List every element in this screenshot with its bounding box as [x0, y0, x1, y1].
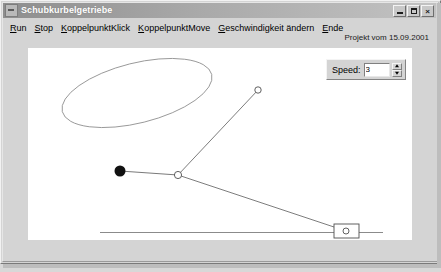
menu-item-ende[interactable]: Ende	[318, 22, 347, 34]
close-button[interactable]: ×	[421, 5, 434, 17]
menu-label: oppelpunktMove	[144, 23, 210, 33]
menu-item-stop[interactable]: Stop	[31, 22, 58, 34]
spin-down-button[interactable]	[392, 70, 402, 77]
slider-joint	[343, 228, 349, 234]
speed-panel: Speed:	[326, 59, 406, 80]
menu-label: eschwindigkeit ändern	[225, 23, 314, 33]
menu-item-koppelpunkt-move[interactable]: KoppelpunktMove	[134, 22, 214, 34]
chevron-up-icon	[395, 64, 399, 67]
spin-up-button[interactable]	[392, 63, 402, 70]
coupler-curve-trace	[55, 48, 219, 141]
project-date-label: Projekt vom 15.09.2001	[345, 33, 430, 42]
minimize-icon	[397, 12, 403, 14]
menu-item-run[interactable]: Run	[6, 22, 31, 34]
title-bar[interactable]: Schubkurbelgetriebe ×	[3, 3, 436, 18]
app-icon	[5, 4, 18, 17]
chevron-down-icon	[395, 72, 399, 75]
crank-joint[interactable]	[174, 171, 181, 178]
speed-spinner[interactable]	[392, 63, 402, 77]
menu-label: un	[17, 23, 27, 33]
speed-label: Speed:	[332, 65, 361, 75]
menu-item-geschwindigkeit-aendern[interactable]: Geschwindigkeit ändern	[214, 22, 318, 34]
maximize-button[interactable]	[407, 5, 420, 17]
window-title: Schubkurbelgetriebe	[21, 5, 393, 16]
crank-link	[120, 171, 178, 175]
menu-item-koppelpunkt-klick[interactable]: KoppelpunktKlick	[57, 22, 134, 34]
maximize-icon	[411, 8, 417, 14]
connecting-rod	[178, 175, 346, 231]
window-shadow-bottom	[3, 264, 441, 268]
close-icon: ×	[422, 6, 433, 16]
window-controls: ×	[393, 5, 435, 17]
menu-label: nde	[328, 23, 343, 33]
coupler-point[interactable]	[255, 87, 261, 93]
window-shadow-right	[437, 3, 441, 268]
menu-label: oppelpunktKlick	[67, 23, 130, 33]
ground-pivot[interactable]	[115, 166, 126, 177]
application-window: Schubkurbelgetriebe × Run Stop Koppelpun…	[0, 0, 441, 272]
coupler-link	[178, 90, 258, 175]
speed-input[interactable]	[364, 63, 390, 77]
minimize-button[interactable]	[393, 5, 406, 17]
menu-label: top	[41, 23, 54, 33]
